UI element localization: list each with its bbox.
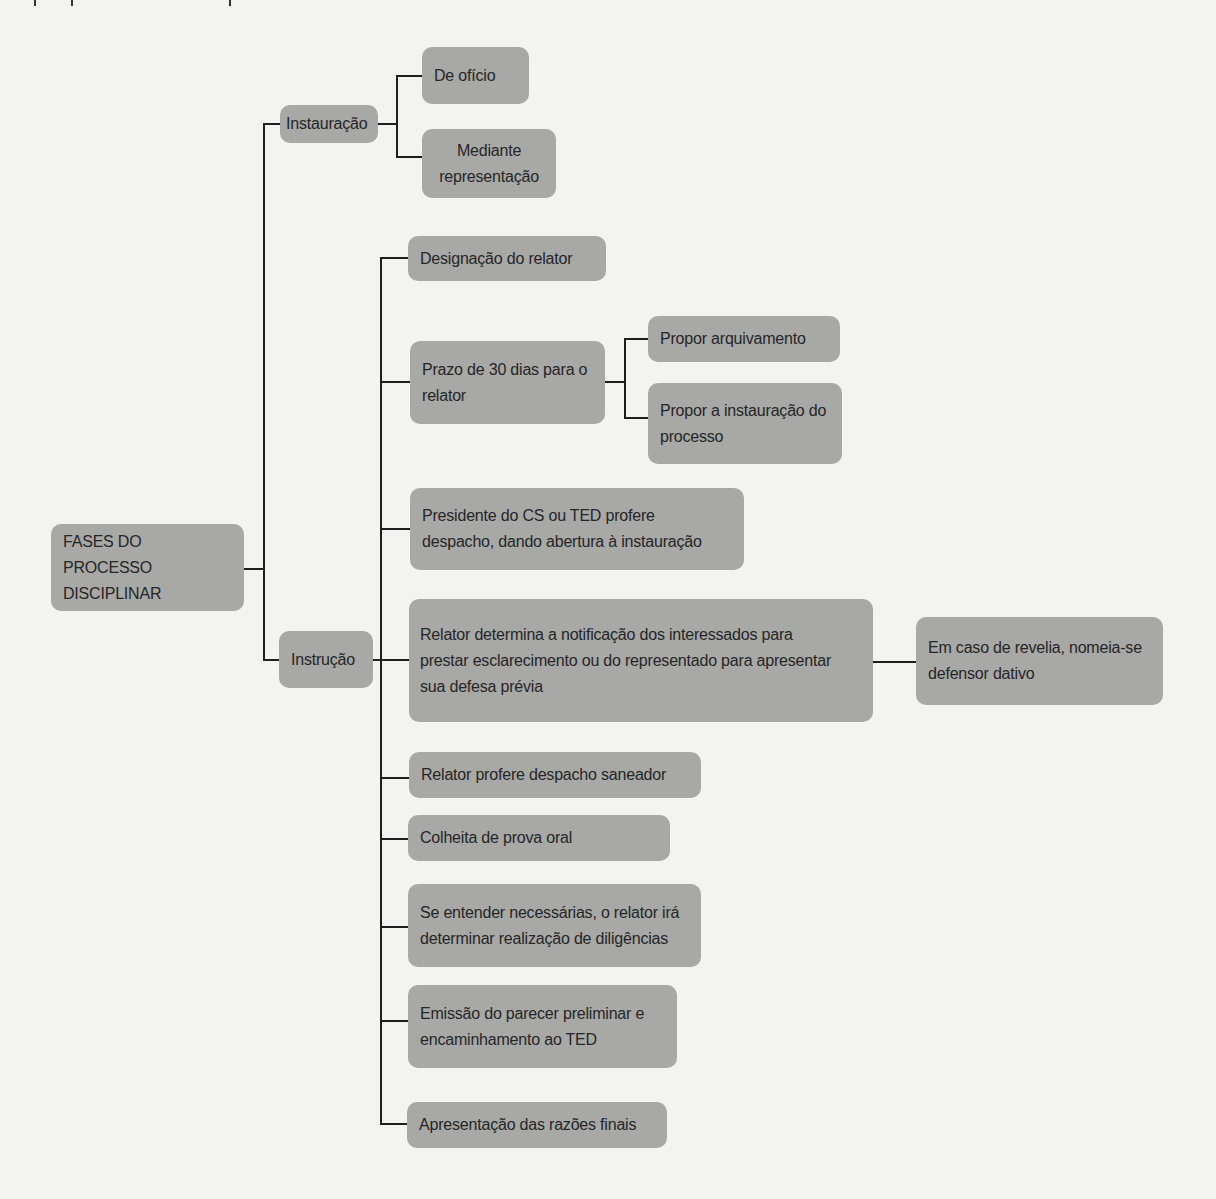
node-label-line-1: Emissão do parecer preliminar e <box>420 1001 644 1027</box>
connector-trunk <box>380 257 382 1125</box>
node-label: Propor arquivamento <box>660 326 806 352</box>
connector <box>380 777 410 779</box>
phase-instauracao: Instauração <box>280 105 378 143</box>
connector-trunk <box>396 75 398 158</box>
connector <box>380 1123 410 1125</box>
node-razoes-finais: Apresentação das razões finais <box>407 1102 667 1148</box>
node-label: Relator profere despacho saneador <box>421 762 666 788</box>
node-label: Colheita de prova oral <box>420 825 572 851</box>
node-label-line-2: relator <box>422 383 587 409</box>
connector-trunk <box>263 123 265 661</box>
connector <box>263 659 280 661</box>
cropped-text-fragment <box>229 0 231 6</box>
connector <box>396 75 423 77</box>
node-propor-instauracao: Propor a instauração do processo <box>648 383 842 464</box>
phase-instrucao-label: Instrução <box>291 647 355 673</box>
node-label-line-1: Relator determina a notificação dos inte… <box>420 622 831 648</box>
node-label-line-2: encaminhamento ao TED <box>420 1027 644 1053</box>
node-de-oficio-label: De ofício <box>434 63 495 89</box>
node-label: Designação do relator <box>420 246 572 272</box>
node-label-line-1: Se entender necessárias, o relator irá <box>420 900 679 926</box>
connector <box>380 1020 410 1022</box>
connector <box>396 156 423 158</box>
node-colheita-prova-oral: Colheita de prova oral <box>408 815 670 861</box>
node-mediante-representacao: Mediante representação <box>422 129 556 198</box>
phase-instrucao: Instrução <box>279 631 373 688</box>
connector <box>873 661 917 663</box>
connector <box>380 528 410 530</box>
node-label: Apresentação das razões finais <box>419 1112 636 1138</box>
node-relator-notificacao: Relator determina a notificação dos inte… <box>409 599 873 722</box>
root-label-line-1: FASES DO PROCESSO <box>63 529 232 581</box>
node-label-line-1: Presidente do CS ou TED profere <box>422 503 702 529</box>
connector <box>605 381 626 383</box>
root-label-line-2: DISCIPLINAR <box>63 581 232 607</box>
connector <box>373 659 409 661</box>
root-node: FASES DO PROCESSO DISCIPLINAR <box>51 524 244 611</box>
node-propor-arquivamento: Propor arquivamento <box>648 316 840 362</box>
phase-instauracao-label: Instauração <box>286 111 367 137</box>
node-parecer-preliminar: Emissão do parecer preliminar e encaminh… <box>408 985 677 1068</box>
node-label-line-2: despacho, dando abertura à instauração <box>422 529 702 555</box>
node-label-line-1: Prazo de 30 dias para o <box>422 357 587 383</box>
node-label-line-2: representação <box>439 164 539 190</box>
node-revelia-defensor: Em caso de revelia, nomeia-se defensor d… <box>916 617 1163 705</box>
node-designacao-relator: Designação do relator <box>408 236 606 281</box>
connector <box>380 926 410 928</box>
node-label-line-2: processo <box>660 424 826 450</box>
connector <box>624 338 649 340</box>
node-label-line-3: sua defesa prévia <box>420 674 831 700</box>
cropped-text-fragment <box>71 0 73 6</box>
node-presidente-despacho: Presidente do CS ou TED profere despacho… <box>410 488 744 570</box>
connector <box>378 123 398 125</box>
node-label-line-1: Propor a instauração do <box>660 398 826 424</box>
node-prazo-30-dias: Prazo de 30 dias para o relator <box>410 341 605 424</box>
connector <box>380 257 410 259</box>
node-de-oficio: De ofício <box>422 47 529 104</box>
node-despacho-saneador: Relator profere despacho saneador <box>409 752 701 798</box>
node-label-line-2: determinar realização de diligências <box>420 926 679 952</box>
connector <box>624 417 649 419</box>
node-label-line-1: Mediante <box>439 138 539 164</box>
connector <box>380 381 410 383</box>
node-label-line-2: prestar esclarecimento ou do representad… <box>420 648 831 674</box>
connector-trunk <box>624 338 626 419</box>
connector <box>263 123 281 125</box>
connector <box>244 568 265 570</box>
connector <box>380 838 410 840</box>
cropped-text-fragment <box>34 0 36 6</box>
node-label-line-1: Em caso de revelia, nomeia-se <box>928 635 1142 661</box>
node-diligencias: Se entender necessárias, o relator irá d… <box>408 884 701 967</box>
node-label-line-2: defensor dativo <box>928 661 1142 687</box>
